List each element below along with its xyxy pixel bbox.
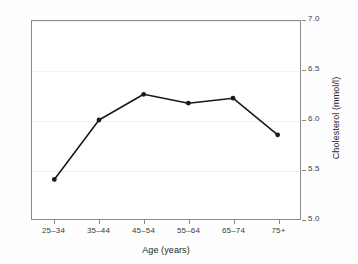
series-cholesterol bbox=[32, 21, 300, 219]
y-axis: 7.06.56.05.55.0 bbox=[302, 20, 332, 220]
x-axis-tick-label: 65–74 bbox=[222, 226, 245, 235]
data-point bbox=[231, 96, 236, 101]
x-axis-tick-mark bbox=[234, 220, 235, 224]
y-axis-title: Cholesterol (mmol/l) bbox=[330, 48, 342, 188]
chart-figure: 7.06.56.05.55.0 Cholesterol (mmol/l) 25–… bbox=[0, 0, 358, 264]
y-axis-tick-mark bbox=[302, 170, 306, 171]
x-axis-tick-mark bbox=[189, 220, 190, 224]
x-axis-tick-label: 55–64 bbox=[177, 226, 200, 235]
plot-area bbox=[31, 20, 301, 220]
x-axis: 25–3435–4445–5455–6465–7475+ bbox=[31, 220, 301, 244]
x-axis-tick-label: 25–34 bbox=[42, 226, 65, 235]
y-axis-tick-label: 5.0 bbox=[308, 214, 320, 223]
x-axis-tick-mark bbox=[144, 220, 145, 224]
series-line bbox=[54, 94, 277, 179]
x-axis-tick-mark bbox=[99, 220, 100, 224]
y-axis-title-label: Cholesterol (mmol/l) bbox=[331, 77, 341, 160]
x-axis-tick-label: 35–44 bbox=[87, 226, 110, 235]
y-axis-tick-mark bbox=[302, 20, 306, 21]
y-axis-tick-label: 6.0 bbox=[308, 114, 320, 123]
y-axis-tick-label: 6.5 bbox=[308, 64, 320, 73]
data-point bbox=[141, 92, 146, 97]
y-axis-tick-label: 7.0 bbox=[308, 14, 320, 23]
y-axis-tick-mark bbox=[302, 220, 306, 221]
x-axis-tick-label: 45–54 bbox=[132, 226, 155, 235]
y-axis-tick-mark bbox=[302, 120, 306, 121]
y-axis-tick-mark bbox=[302, 70, 306, 71]
x-axis-title: Age (years) bbox=[31, 245, 301, 255]
data-point bbox=[275, 132, 280, 137]
y-axis-tick-label: 5.5 bbox=[308, 164, 320, 173]
data-point bbox=[52, 177, 57, 182]
data-point bbox=[97, 118, 102, 123]
x-axis-tick-mark bbox=[279, 220, 280, 224]
x-axis-tick-mark bbox=[54, 220, 55, 224]
data-point bbox=[186, 101, 191, 106]
x-axis-tick-label: 75+ bbox=[271, 226, 285, 235]
